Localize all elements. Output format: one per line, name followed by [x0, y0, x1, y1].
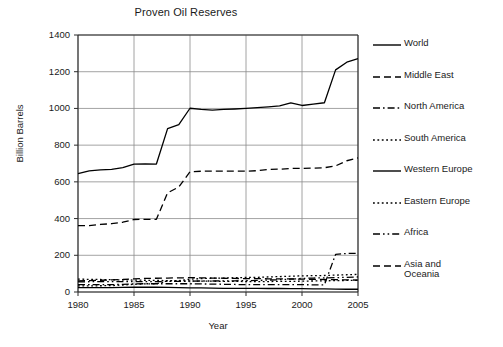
legend-label: Western Europe: [402, 164, 472, 175]
legend-item[interactable]: Middle East: [372, 70, 454, 92]
legend-item[interactable]: Eastern Europe: [372, 196, 470, 218]
legend-item[interactable]: World: [372, 38, 429, 60]
legend-item[interactable]: Western Europe: [372, 164, 472, 186]
legend-line-swatch: [372, 165, 402, 177]
legend-line-swatch: [372, 71, 402, 83]
legend-item[interactable]: Africa: [372, 227, 428, 249]
legend-line-swatch: [372, 228, 402, 240]
legend-item[interactable]: North America: [372, 101, 464, 123]
legend-label: Middle East: [402, 70, 454, 81]
chart-legend: WorldMiddle EastNorth AmericaSouth Ameri…: [372, 38, 503, 298]
legend-label: World: [402, 38, 429, 49]
legend-line-swatch: [372, 260, 402, 272]
legend-label: Asia and Oceania: [402, 259, 441, 280]
series-line: [78, 253, 358, 285]
legend-label: South America: [402, 133, 466, 144]
legend-item[interactable]: South America: [372, 133, 466, 155]
legend-line-swatch: [372, 197, 402, 209]
chart-container: Proven Oil Reserves Billion Barrels Year…: [0, 0, 503, 347]
legend-label: North America: [402, 101, 464, 112]
legend-label: Eastern Europe: [402, 196, 470, 207]
series-line: [78, 287, 358, 289]
series-line: [78, 59, 358, 174]
legend-line-swatch: [372, 39, 402, 51]
legend-line-swatch: [372, 102, 402, 114]
legend-line-swatch: [372, 134, 402, 146]
legend-item[interactable]: Asia and Oceania: [372, 259, 441, 281]
legend-label: Africa: [402, 227, 428, 238]
